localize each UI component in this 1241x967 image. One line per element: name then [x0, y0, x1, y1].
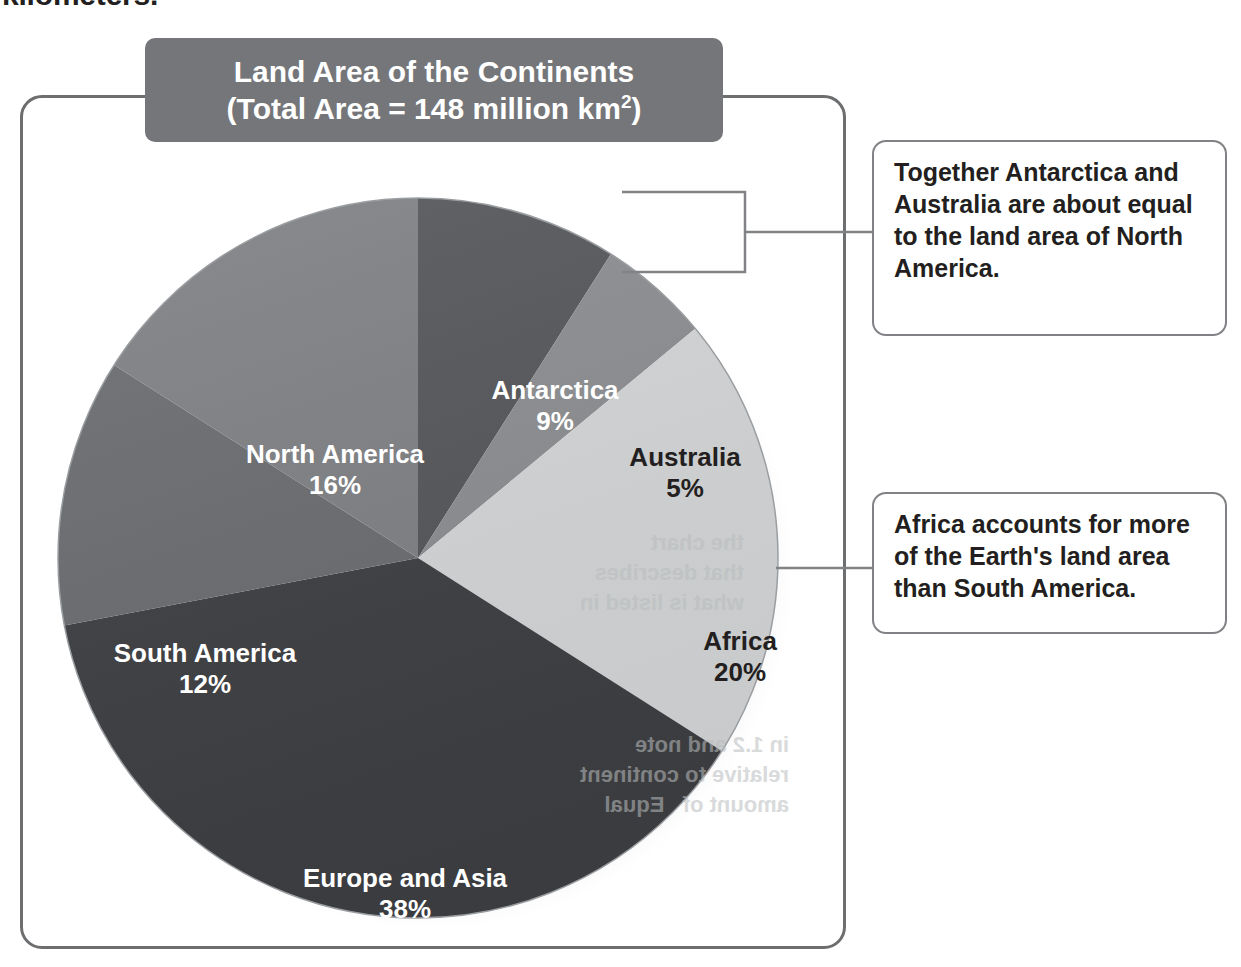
page-top-text-fragment: kilometers. [2, 0, 158, 12]
pie-svg [40, 160, 810, 950]
chart-title-line-1: Land Area of the Continents [234, 53, 635, 90]
chart-title-line-2: (Total Area = 148 million km2) [227, 90, 642, 127]
pie-label-africa: Africa 20% [660, 626, 820, 688]
chart-title-total-value: 148 million km [406, 92, 621, 125]
callout-africa-south-america-text: Africa accounts for more of the Earth's … [894, 510, 1190, 602]
pie-label-africa-value: 20% [660, 657, 820, 688]
pie-label-australia-name: Australia [629, 442, 740, 472]
callout-antarctica-australia: Together Antarctica and Australia are ab… [872, 140, 1227, 336]
pie-label-europe-and-asia-name: Europe and Asia [303, 863, 507, 893]
chart-title-total-prefix: (Total Area [227, 92, 389, 125]
pie-label-australia: Australia 5% [600, 442, 770, 504]
pie-label-south-america: South America 12% [80, 638, 330, 700]
chart-title-superscript: 2 [621, 91, 632, 112]
pie-label-north-america: North America 16% [215, 439, 455, 501]
callout-antarctica-australia-text: Together Antarctica and Australia are ab… [894, 158, 1193, 282]
pie-label-south-america-value: 12% [80, 669, 330, 700]
pie-label-antarctica-value: 9% [455, 406, 655, 437]
pie-label-north-america-name: North America [246, 439, 424, 469]
callout-africa-south-america: Africa accounts for more of the Earth's … [872, 492, 1227, 634]
pie-label-north-america-value: 16% [215, 470, 455, 501]
pie-chart: the chart that describes what is listed … [40, 160, 810, 950]
pie-slices [58, 198, 778, 918]
pie-label-antarctica: Antarctica 9% [455, 375, 655, 437]
pie-label-south-america-name: South America [114, 638, 297, 668]
pie-label-europe-and-asia-value: 38% [270, 894, 540, 925]
pie-label-europe-and-asia: Europe and Asia 38% [270, 863, 540, 925]
chart-title-close-paren: ) [631, 92, 641, 125]
pie-sheen [58, 198, 778, 918]
pie-label-antarctica-name: Antarctica [491, 375, 618, 405]
pie-label-australia-value: 5% [600, 473, 770, 504]
pie-label-africa-name: Africa [703, 626, 777, 656]
chart-title: Land Area of the Continents (Total Area … [145, 38, 723, 142]
chart-title-equals-sign: = [388, 92, 406, 125]
